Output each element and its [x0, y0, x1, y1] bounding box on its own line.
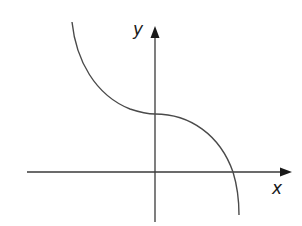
y-axis-arrow-icon	[151, 26, 160, 38]
graph-svg	[0, 0, 302, 226]
y-axis-label: y	[133, 21, 143, 38]
x-axis-label: x	[272, 180, 282, 197]
x-axis-arrow-icon	[280, 168, 292, 177]
graph-canvas: y x	[0, 0, 302, 226]
